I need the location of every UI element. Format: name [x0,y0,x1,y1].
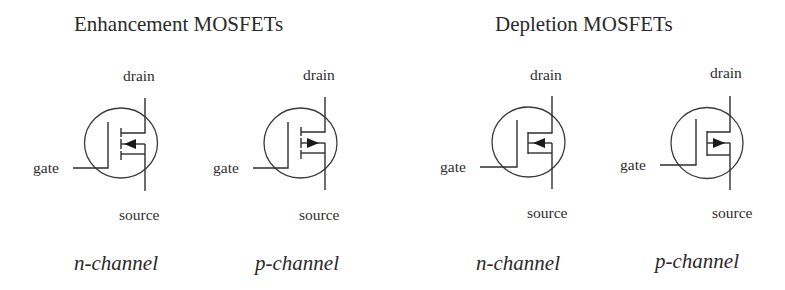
channel-type-label: p-channel [653,249,739,273]
depletion-title: Depletion MOSFETs [495,12,673,36]
arrow-outward-icon [307,138,319,148]
gate-label: gate [620,156,646,173]
enhancement-n-channel-symbol: drain source gate n-channel [33,67,160,275]
arrow-outward-icon [713,138,725,148]
channel-type-label: n-channel [476,251,560,275]
gate-lead [660,119,696,165]
source-label: source [527,204,568,221]
gate-lead [73,122,108,168]
drain-label: drain [530,66,562,83]
enhancement-title: Enhancement MOSFETs [74,12,283,36]
source-label: source [712,204,753,221]
drain-label: drain [303,66,335,83]
depletion-n-channel-symbol: drain source gate n-channel [440,66,568,275]
channel-type-label: n-channel [74,251,158,275]
drain-lead [707,96,730,132]
drain-label: drain [123,67,155,84]
arrow-inward-icon [533,138,545,148]
gate-lead [253,122,288,168]
depletion-p-channel-symbol: drain source gate p-channel [620,64,753,273]
drain-lead [528,96,552,133]
gate-label: gate [213,159,239,176]
drain-lead [121,98,145,133]
gate-label: gate [33,159,59,176]
channel-type-label: p-channel [253,251,339,275]
gate-lead [480,120,517,167]
arrow-inward-icon [124,139,136,149]
source-label: source [119,206,160,223]
source-label: source [299,206,340,223]
drain-label: drain [710,64,742,81]
gate-label: gate [440,158,466,175]
enhancement-p-channel-symbol: drain source gate p-channel [213,66,340,275]
mosfet-symbols-diagram: Enhancement MOSFETs Depletion MOSFETs dr… [0,0,785,290]
